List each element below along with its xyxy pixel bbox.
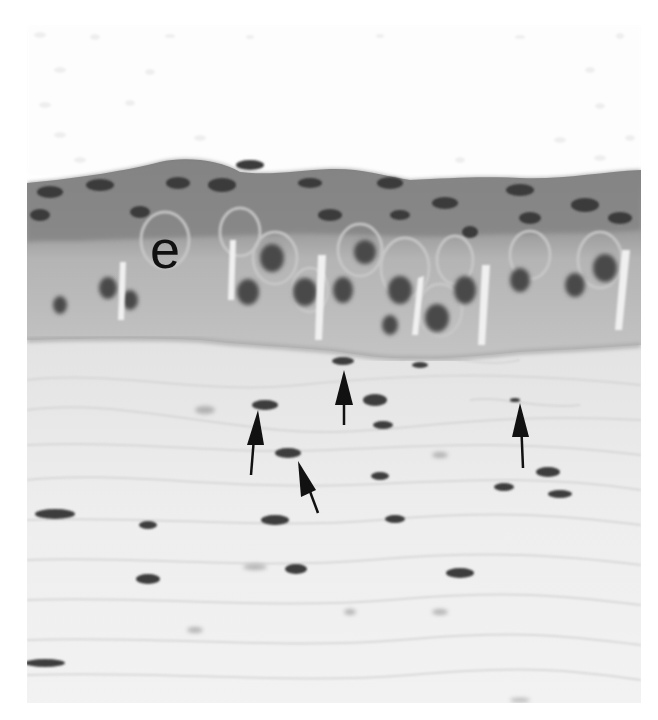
micrograph-figure: e — [0, 0, 658, 720]
faint-top-region — [27, 25, 641, 175]
micrograph-svg: e — [0, 0, 658, 720]
panel-label-e: e — [150, 219, 180, 279]
